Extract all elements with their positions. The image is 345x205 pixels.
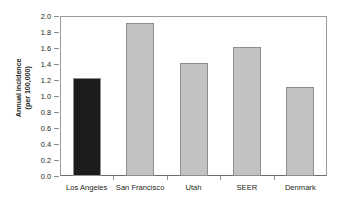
x-axis-tick-mark [274,176,275,180]
y-axis-tick-mark [54,144,59,145]
y-axis-tick-label: 1.0 [41,91,51,102]
y-axis-tick-mark [54,32,59,33]
x-axis-label: SEER [237,183,258,193]
y-axis-tick-mark [54,112,59,113]
y-axis-tick-label: 1.8 [41,27,51,38]
x-axis-label: Denmark [285,183,316,193]
y-axis-tick-label: 1.2 [41,75,51,86]
x-axis-tick-mark [220,176,221,180]
y-axis-tick-mark [54,48,59,49]
y-axis-title-line-1: Annual incidence [14,59,23,118]
y-axis-tick-label: 2.0 [41,11,51,22]
y-axis-tick-mark [54,64,59,65]
bar-san-francisco [126,23,154,176]
y-axis-tick-mark [54,80,59,81]
x-axis-label: Utah [185,183,201,193]
y-axis-tick-label: 0.0 [41,171,51,182]
bar-denmark [286,87,314,176]
y-axis-tick-mark [54,160,59,161]
y-axis-tick-label: 0.2 [41,155,51,166]
bar-chart-figure: Annual incidence (per 100,000) 2.01.81.6… [0,0,345,205]
y-axis-tick-label: 1.6 [41,43,51,54]
y-axis-tick-label: 0.4 [41,139,51,150]
x-axis-label: Los Angeles [66,183,107,193]
y-axis-title: Annual incidence (per 100,000) [8,0,38,176]
y-axis-tick-mark [54,176,59,177]
bar-utah [180,63,208,176]
y-axis-tick-mark [54,128,59,129]
bar-seer [233,47,261,176]
y-axis-tick-label: 0.6 [41,123,51,134]
bar-los-angeles [73,78,101,176]
x-axis-tick-mark [167,176,168,180]
y-axis-tick-mark [54,96,59,97]
y-axis-tick-label: 1.4 [41,59,51,70]
y-axis-tick-label: 0.8 [41,107,51,118]
y-axis-title-line-2: (per 100,000) [23,59,32,118]
y-axis-tick-mark [54,16,59,17]
x-axis-tick-mark [113,176,114,180]
x-axis-label: San Francisco [116,183,165,193]
